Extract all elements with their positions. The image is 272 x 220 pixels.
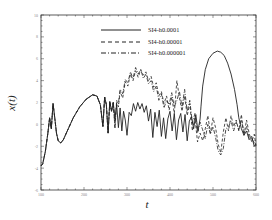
x-tick-label: 200 (81, 192, 87, 197)
series-line-solid (41, 51, 256, 166)
legend: SI4-h0.0001 SI4-h0.00001 SI4-h0.000001 (101, 26, 186, 56)
y-tick-label: -4 (35, 166, 38, 171)
x-axis-label: t (145, 198, 149, 210)
ticks-layer: 100200300400500600-6-4-20246810 (34, 13, 259, 198)
line-chart: 100200300400500600-6-4-20246810 t x(t) S… (0, 0, 272, 220)
series-layer (41, 51, 256, 166)
legend-label: SI4-h0.0001 (148, 26, 179, 33)
series-line-dashdot (41, 68, 256, 166)
x-tick-label: 400 (167, 192, 173, 197)
y-tick-label: 2 (36, 100, 38, 105)
y-tick-label: 10 (34, 13, 38, 18)
y-tick-label: 8 (36, 34, 38, 39)
legend-label: SI4-h0.00001 (148, 38, 182, 45)
x-tick-label: 300 (124, 192, 130, 197)
y-tick-label: -6 (35, 188, 38, 193)
y-tick-label: 4 (36, 78, 38, 83)
y-tick-label: 6 (36, 56, 38, 61)
x-tick-label: 500 (210, 192, 216, 197)
legend-label: SI4-h0.000001 (148, 49, 186, 56)
y-tick-label: -2 (35, 144, 38, 149)
y-tick-label: 0 (36, 122, 38, 127)
y-axis-label: x(t) (5, 95, 18, 112)
x-tick-label: 100 (38, 192, 44, 197)
x-tick-label: 600 (253, 192, 259, 197)
